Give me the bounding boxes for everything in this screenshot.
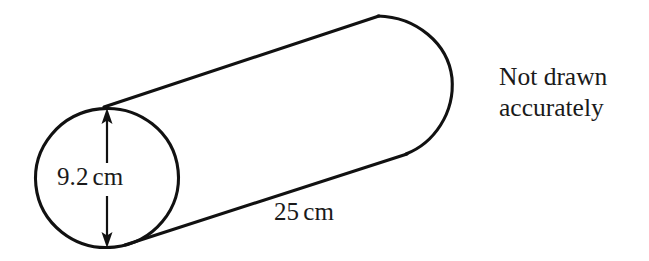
note-line-1: Not drawn bbox=[499, 61, 607, 92]
diameter-value: 9.2 bbox=[57, 163, 89, 190]
cylinder-bottom-edge bbox=[125, 154, 407, 245]
diameter-unit: cm bbox=[93, 163, 124, 190]
length-unit: cm bbox=[303, 198, 334, 225]
length-label: 25cm bbox=[274, 199, 334, 225]
diameter-label: 9.2cm bbox=[57, 164, 123, 190]
cylinder-figure: 9.2cm 25cm Not drawn accurately bbox=[0, 0, 649, 261]
note-line-2: accurately bbox=[499, 92, 607, 123]
length-value: 25 bbox=[274, 198, 299, 225]
not-drawn-accurately-note: Not drawn accurately bbox=[499, 61, 607, 123]
cylinder-top-edge bbox=[104, 16, 379, 107]
cylinder-right-end-arc bbox=[378, 16, 452, 154]
